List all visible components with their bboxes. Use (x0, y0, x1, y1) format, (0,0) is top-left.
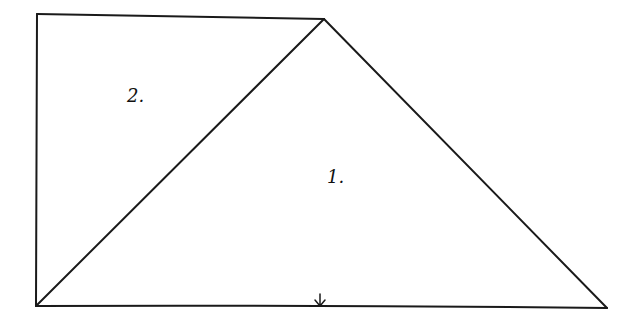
region-1-label: 1. (327, 168, 344, 186)
region-2-label: 2. (127, 87, 144, 105)
down-arrow-icon (315, 294, 325, 306)
triangle-left-side (36, 19, 324, 306)
base-edge (36, 306, 607, 308)
top-edge (37, 14, 324, 19)
geometry-diagram (0, 0, 638, 325)
left-edge (36, 14, 37, 306)
triangle-right-side (324, 19, 607, 308)
